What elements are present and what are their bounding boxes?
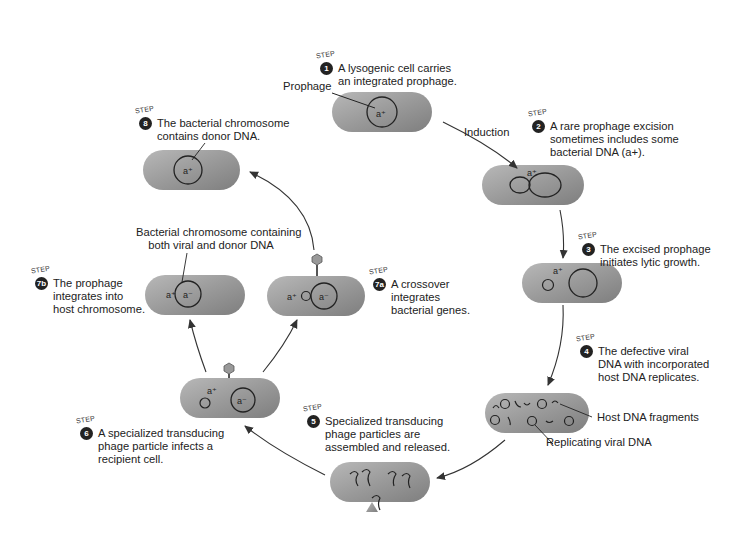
step-text-line: The prophage (53, 277, 145, 290)
step-text-line: integrates into (53, 290, 145, 303)
svg-text:a⁻: a⁻ (319, 292, 329, 302)
step-number-badge: 3 (582, 243, 595, 256)
step-text-line: an integrated prophage. (338, 75, 457, 88)
step-text-line: bacterial DNA (a+). (550, 146, 679, 159)
step-number-badge: 7b (35, 277, 48, 290)
step-text: A lysogenic cell carries an integrated p… (338, 62, 457, 88)
step-number-badge: 1 (320, 62, 333, 75)
step-text-line: host DNA replicates. (598, 371, 709, 384)
step-text-line: bacterial genes. (391, 304, 470, 317)
label-chromosome-both-line1: Bacterial chromosome containing (136, 226, 286, 239)
step-text-line: Specialized transducing (325, 415, 450, 428)
label-chromosome-both: Bacterial chromosome containing both vir… (136, 226, 286, 252)
label-chromosome-both-line2: both viral and donor DNA (136, 239, 286, 252)
step-text-line: A crossover (391, 278, 470, 291)
step-text-line: A lysogenic cell carries (338, 62, 457, 75)
step-text: A specialized transducing phage particle… (98, 427, 224, 466)
svg-text:a⁻: a⁻ (183, 290, 193, 300)
step-text-line: host chromosome. (53, 303, 145, 316)
label-replicating-viral-dna: Replicating viral DNA (546, 436, 652, 449)
step-number-badge: 5 (307, 415, 320, 428)
cell-step2: a⁺ (482, 165, 584, 205)
cell-step8: a⁺ (143, 143, 240, 190)
step-number-badge: 7a (373, 278, 386, 291)
step-text-line: contains donor DNA. (157, 130, 289, 143)
step-text-line: phage particle infects a (98, 440, 224, 453)
svg-text:a⁺: a⁺ (376, 109, 386, 119)
step-text-line: phage particles are (325, 428, 450, 441)
step-text: The bacterial chromosome contains donor … (157, 117, 289, 143)
step-text-line: sometimes includes some (550, 133, 679, 146)
step-text-line: The excised prophage (600, 243, 711, 256)
step-text-line: A specialized transducing (98, 427, 224, 440)
step-text-line: DNA with incorporated (598, 358, 709, 371)
svg-text:a⁺: a⁺ (527, 168, 537, 178)
step-number-badge: 4 (580, 345, 593, 358)
label-host-dna-fragments: Host DNA fragments (597, 411, 699, 424)
step-number-badge: 6 (80, 427, 93, 440)
step-text-line: The bacterial chromosome (157, 117, 289, 130)
cell-step1: a⁺ (332, 92, 432, 132)
step-text: Specialized transducing phage particles … (325, 415, 450, 454)
svg-text:a⁻: a⁻ (237, 396, 247, 406)
cell-step7a: a⁺ a⁻ (267, 254, 365, 316)
label-induction: Induction (464, 126, 509, 139)
label-prophage: Prophage (283, 80, 332, 93)
svg-text:a⁺: a⁺ (207, 386, 217, 396)
cell-step6: a⁺ a⁻ (180, 363, 280, 418)
cell-step5 (330, 462, 430, 512)
step-text-line: integrates (391, 291, 470, 304)
svg-text:a⁺: a⁺ (183, 166, 193, 176)
step-text: A crossover integrates bacterial genes. (391, 278, 470, 317)
step-number-badge: 2 (532, 120, 545, 133)
step-text-line: The defective viral (598, 345, 709, 358)
step-text: The excised prophage initiates lytic gro… (600, 243, 711, 269)
step-text-line: assembled and released. (325, 441, 450, 454)
cell-step3: a⁺ (522, 263, 622, 303)
step-text: The prophage integrates into host chromo… (53, 277, 145, 316)
step-text-line: recipient cell. (98, 453, 224, 466)
step-text-line: initiates lytic growth. (600, 256, 711, 269)
cell-step7b: a⁺ a⁻ (145, 253, 245, 315)
step-text: A rare prophage excision sometimes inclu… (550, 120, 679, 159)
svg-text:a⁺: a⁺ (287, 292, 297, 302)
svg-text:a⁺: a⁺ (553, 266, 563, 276)
step-text-line: A rare prophage excision (550, 120, 679, 133)
step-text: The defective viral DNA with incorporate… (598, 345, 709, 384)
step-number-badge: 8 (139, 117, 152, 130)
